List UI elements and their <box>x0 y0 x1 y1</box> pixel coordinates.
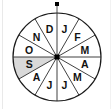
spinner-figure: JFMAMJJASOND <box>0 0 111 109</box>
pointer-dot-icon <box>55 2 59 6</box>
center-hub-icon <box>55 55 60 60</box>
spinner-wheel[interactable]: JFMAMJJASOND <box>0 0 111 109</box>
